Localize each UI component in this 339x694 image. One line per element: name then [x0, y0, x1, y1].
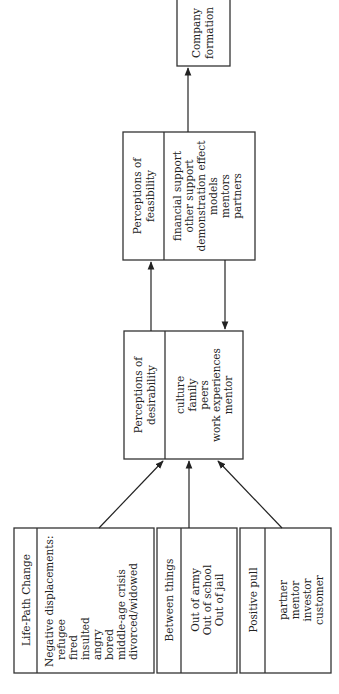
between-line: Out of jail	[213, 573, 225, 626]
desirability-line: culture	[174, 376, 186, 414]
life-path-line: angry	[91, 629, 103, 660]
desirability-line: work experiences	[210, 348, 222, 442]
company-title: formation	[203, 7, 215, 59]
positive-line: customer	[313, 574, 325, 625]
company-title: Company	[190, 8, 202, 58]
node-between-things: Between things Out of army Out of school…	[157, 528, 237, 673]
life-path-line: bored	[103, 629, 115, 660]
life-path-line: refugee	[55, 619, 67, 660]
life-path-line: fired	[67, 635, 79, 660]
edge-positive-to-desirability	[218, 461, 282, 528]
life-path-title: Life-Path Change	[20, 554, 32, 646]
desirability-line: mentor	[222, 375, 234, 414]
between-title: Between things	[163, 559, 175, 642]
node-life-path-change: Life-Path Change Negative displacements:…	[14, 528, 154, 673]
positive-title: Positive pull	[247, 567, 259, 633]
desirability-line: family	[186, 379, 198, 412]
life-path-line: Negative displacements:	[43, 536, 55, 667]
positive-line: mentor	[289, 580, 301, 619]
positive-line: investor	[301, 577, 313, 621]
desirability-line: peers	[198, 380, 210, 410]
feasibility-line: partners	[231, 173, 243, 219]
feasibility-title: feasibility	[144, 170, 156, 222]
diagram-canvas: Life-Path Change Negative displacements:…	[0, 0, 339, 694]
node-positive-pull: Positive pull partner mentor investor cu…	[240, 528, 331, 673]
desirability-title: desirability	[145, 365, 157, 425]
life-path-line: middle-age crisis	[115, 569, 127, 660]
life-path-line: divorced/widowed	[127, 563, 139, 660]
feasibility-title: Perceptions of	[131, 157, 143, 234]
node-perceptions-of-feasibility: Perceptions of feasibility financial sup…	[123, 132, 255, 260]
feasibility-line: demonstration effect	[195, 140, 207, 252]
life-path-line: insulted	[79, 617, 91, 660]
between-line: Out of army	[189, 568, 201, 632]
edge-life-path-to-desirability	[99, 461, 163, 528]
feasibility-line: mentors	[219, 174, 231, 218]
node-perceptions-of-desirability: Perceptions of desirability culture fami…	[124, 331, 243, 459]
feasibility-line: other support	[183, 159, 195, 233]
feasibility-line: models	[207, 177, 219, 215]
feasibility-line: financial support	[171, 150, 183, 241]
desirability-title: Perceptions of	[132, 356, 144, 433]
node-company-formation: Company formation	[177, 0, 230, 66]
between-line: Out of school	[201, 564, 213, 635]
positive-line: partner	[277, 579, 289, 620]
